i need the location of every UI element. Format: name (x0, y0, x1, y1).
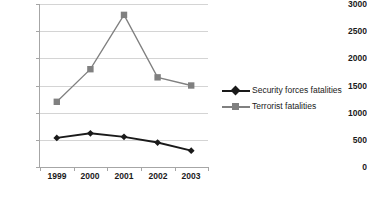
diamond-marker-icon (231, 86, 241, 96)
series-line-1 (57, 15, 191, 102)
legend-swatch-terrorist-fatalities (222, 101, 250, 112)
diamond-marker (53, 135, 60, 142)
square-marker (54, 99, 60, 105)
diamond-marker (154, 139, 161, 146)
square-marker (121, 12, 127, 18)
legend-item-terrorist-fatalities: Terrorist fatalities (222, 100, 365, 113)
square-marker (188, 82, 194, 88)
diamond-marker (121, 133, 128, 140)
line-chart: 3000 2500 2000 1500 1000 500 0 1999 2000… (0, 0, 367, 204)
chart-legend: Security forces fatalities Terrorist fat… (222, 84, 365, 116)
square-marker (154, 74, 160, 80)
legend-item-security-forces-fatalities: Security forces fatalities (222, 84, 365, 97)
legend-swatch-security-forces-fatalities (222, 85, 250, 96)
diamond-marker (188, 147, 195, 154)
square-marker-icon (232, 103, 239, 110)
legend-label-security-forces-fatalities: Security forces fatalities (252, 86, 342, 95)
diamond-marker (87, 130, 94, 137)
legend-label-terrorist-fatalities: Terrorist fatalities (252, 102, 316, 111)
square-marker (87, 66, 93, 72)
